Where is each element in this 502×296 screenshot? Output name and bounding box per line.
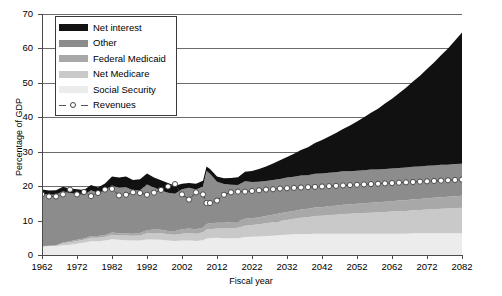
- legend-label: Social Security: [93, 85, 156, 95]
- revenues-marker: [88, 194, 93, 199]
- x-tick-mark: [147, 255, 148, 259]
- revenues-marker: [221, 192, 226, 197]
- legend-label: Net Medicare: [93, 69, 150, 79]
- y-tick-label: 10: [9, 215, 33, 226]
- legend-item-net-medicare[interactable]: Net Medicare: [59, 67, 176, 83]
- legend-label: Other: [93, 38, 117, 48]
- x-tick-label: 2032: [267, 261, 307, 272]
- legend-swatch: [59, 55, 88, 62]
- x-tick-mark: [112, 255, 113, 259]
- x-tick-label: 2082: [442, 261, 482, 272]
- legend-swatch-revenues: [59, 101, 88, 110]
- revenues-marker: [67, 187, 72, 192]
- x-tick-label: 2002: [162, 261, 202, 272]
- revenues-marker: [396, 180, 401, 185]
- legend-swatch: [59, 40, 88, 47]
- revenues-marker: [452, 177, 457, 182]
- revenues-marker: [410, 179, 415, 184]
- revenues-marker: [256, 188, 261, 193]
- chart-figure: Percentage of GDP Fiscal year 0102030405…: [0, 0, 502, 296]
- revenues-marker: [354, 182, 359, 187]
- revenues-marker: [291, 185, 296, 190]
- revenues-marker: [200, 192, 205, 197]
- x-tick-mark: [287, 255, 288, 259]
- revenues-marker: [305, 185, 310, 190]
- revenues-marker: [144, 192, 149, 197]
- revenues-marker: [165, 184, 170, 189]
- legend-item-social-security[interactable]: Social Security: [59, 82, 176, 98]
- x-tick-mark: [392, 255, 393, 259]
- legend-item-federal-medicaid[interactable]: Federal Medicaid: [59, 51, 176, 67]
- legend-item-net-interest[interactable]: Net interest: [59, 20, 176, 36]
- x-tick-mark: [252, 255, 253, 259]
- x-tick-label: 1992: [127, 261, 167, 272]
- revenues-marker: [214, 198, 219, 203]
- x-tick-label: 2052: [337, 261, 377, 272]
- revenues-marker: [130, 190, 135, 195]
- y-tick-label: 60: [9, 42, 33, 53]
- x-tick-label: 2042: [302, 261, 342, 272]
- revenues-marker: [116, 193, 121, 198]
- legend-swatch: [59, 86, 88, 93]
- revenues-marker: [53, 194, 58, 199]
- y-axis-title: Percentage of GDP: [14, 82, 24, 192]
- y-tick-label: 50: [9, 77, 33, 88]
- x-tick-mark: [77, 255, 78, 259]
- y-tick-label: 70: [9, 8, 33, 19]
- chart-legend[interactable]: Net interestOtherFederal MedicaidNet Med…: [55, 16, 177, 116]
- revenues-marker: [424, 179, 429, 184]
- legend-item-other[interactable]: Other: [59, 36, 176, 52]
- revenues-marker: [151, 190, 156, 195]
- x-axis-title: Fiscal year: [0, 276, 502, 286]
- x-tick-mark: [357, 255, 358, 259]
- revenues-marker: [312, 184, 317, 189]
- revenues-marker: [74, 192, 79, 197]
- revenues-marker: [228, 190, 233, 195]
- x-tick-label: 2012: [197, 261, 237, 272]
- revenues-marker: [263, 187, 268, 192]
- revenues-marker: [172, 181, 177, 186]
- x-tick-mark: [427, 255, 428, 259]
- revenues-marker: [235, 189, 240, 194]
- x-tick-mark: [42, 255, 43, 259]
- legend-label: Revenues: [93, 100, 136, 110]
- revenues-marker: [242, 189, 247, 194]
- legend-swatch: [59, 71, 88, 78]
- y-tick-label: 20: [9, 180, 33, 191]
- revenues-marker: [270, 187, 275, 192]
- legend-label: Net interest: [93, 23, 142, 33]
- y-tick-label: 30: [9, 146, 33, 157]
- revenues-marker: [368, 181, 373, 186]
- revenues-marker: [46, 194, 51, 199]
- revenues-marker: [102, 187, 107, 192]
- revenues-marker: [298, 185, 303, 190]
- x-tick-mark: [322, 255, 323, 259]
- legend-swatch: [59, 24, 88, 31]
- y-tick-label: 40: [9, 111, 33, 122]
- revenues-marker: [417, 179, 422, 184]
- revenues-marker: [95, 190, 100, 195]
- revenues-marker: [333, 183, 338, 188]
- revenues-marker: [389, 180, 394, 185]
- revenues-marker: [438, 178, 443, 183]
- x-tick-mark: [462, 255, 463, 259]
- revenues-marker: [382, 181, 387, 186]
- x-tick-mark: [217, 255, 218, 259]
- revenues-marker: [207, 200, 212, 205]
- revenues-marker: [179, 192, 184, 197]
- x-tick-label: 2022: [232, 261, 272, 272]
- legend-item-revenues[interactable]: Revenues: [59, 98, 176, 114]
- revenues-marker: [109, 186, 114, 191]
- revenues-marker: [340, 183, 345, 188]
- x-tick-label: 1962: [22, 261, 62, 272]
- revenues-marker: [431, 178, 436, 183]
- x-tick-label: 1972: [57, 261, 97, 272]
- x-tick-label: 1982: [92, 261, 132, 272]
- revenues-marker: [81, 189, 86, 194]
- revenues-marker: [445, 178, 450, 183]
- x-tick-label: 2062: [372, 261, 412, 272]
- revenues-marker: [60, 192, 65, 197]
- revenues-marker: [403, 180, 408, 185]
- legend-label: Federal Medicaid: [93, 54, 166, 64]
- y-tick-label: 0: [9, 249, 33, 260]
